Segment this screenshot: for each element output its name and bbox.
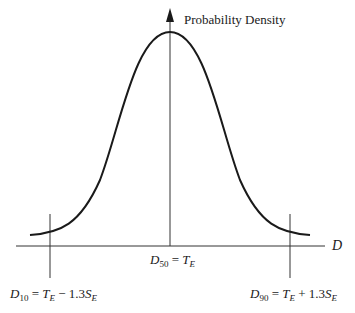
y-axis-label: Probability Density [184,12,285,28]
d50-label: D50 = TE [150,252,195,268]
d90-label: D90 = TE + 1.3SE [250,286,337,302]
x-axis-label: D [332,238,342,254]
arrow-up-icon [166,8,174,22]
d10-label: D10 = TE − 1.3SE [10,286,97,302]
